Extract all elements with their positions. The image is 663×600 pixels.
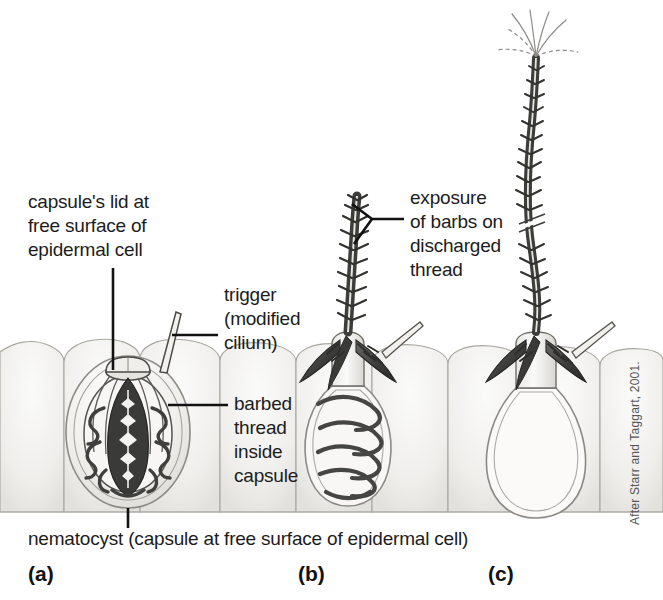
label-capsule-lid: capsule's lid at free surface of epiderm… — [28, 190, 149, 262]
label-exposure-of-barbs: exposure of barbs on discharged thread — [410, 186, 503, 282]
label-barbed-thread: barbed thread inside capsule — [234, 392, 298, 488]
panel-label-b: (b) — [298, 562, 325, 586]
label-trigger: trigger (modified cilium) — [224, 283, 300, 355]
discharged-thread-b — [337, 195, 368, 332]
figure-caption: nematocyst (capsule at free surface of e… — [28, 528, 468, 550]
trigger-cilium-c — [572, 322, 615, 358]
nematocyst-figure: capsule's lid at free surface of epiderm… — [0, 0, 663, 600]
panel-label-c: (c) — [488, 562, 514, 586]
discharged-thread-c — [496, 10, 578, 332]
panel-label-a: (a) — [28, 562, 54, 586]
nematocyst-illustration — [0, 0, 663, 600]
source-credit: After Starr and Taggart, 2001. — [628, 361, 642, 525]
